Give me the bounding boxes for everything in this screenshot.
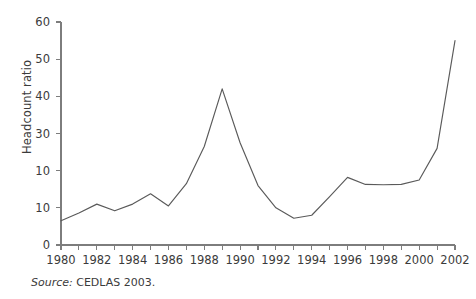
y-tick-label: 0	[16, 239, 50, 251]
y-tick-label: 50	[16, 53, 50, 65]
source-note: Source: CEDLAS 2003.	[31, 276, 155, 290]
source-text: CEDLAS 2003.	[76, 276, 155, 289]
source-label: Source:	[31, 276, 73, 289]
figure-headcount-ratio: Headcount ratio 0101030405060 1980198219…	[0, 0, 476, 299]
y-tick-label: 10	[16, 202, 50, 214]
x-axis-ticks	[61, 245, 455, 250]
y-axis-title: Headcount ratio	[18, 0, 36, 222]
chart-svg	[0, 0, 476, 270]
x-tick-label: 2002	[432, 254, 476, 266]
y-tick-label: 30	[16, 128, 50, 140]
y-axis-ticks	[56, 22, 61, 245]
data-series-line	[61, 41, 455, 221]
chart-axes	[61, 22, 455, 245]
y-tick-label: 40	[16, 90, 50, 102]
y-tick-label: 60	[16, 16, 50, 28]
chart-plot-area: Headcount ratio 0101030405060 1980198219…	[0, 0, 476, 270]
y-tick-label: 10	[16, 165, 50, 177]
